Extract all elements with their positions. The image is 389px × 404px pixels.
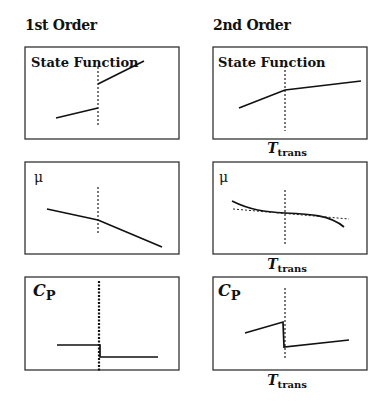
panel-frame-second-mu [213, 162, 367, 254]
ttrans-sub: trans [278, 147, 307, 158]
axis-label-ttrans-cp: Ttrans [257, 372, 317, 388]
phase-transition-diagram: State Function State Function μ μ CP CP [0, 0, 389, 404]
label-second-mu: μ [219, 169, 228, 185]
axis-label-ttrans-mu: Ttrans [257, 256, 317, 272]
axis-label-ttrans-sf: Ttrans [257, 140, 317, 156]
label-second-cp: CP [218, 281, 241, 303]
curve-first-cp [57, 345, 158, 357]
curve-first-sf-low [56, 108, 98, 118]
curve-second-mu [232, 201, 344, 227]
label-second-cp-main: C [218, 281, 231, 300]
label-first-state-function: State Function [31, 55, 139, 70]
ttrans-sub: trans [278, 379, 307, 390]
ttrans-main: T [267, 140, 277, 156]
label-second-cp-sub: P [231, 288, 241, 303]
curve-second-cp [245, 322, 349, 347]
ttrans-main: T [267, 256, 277, 272]
ttrans-main: T [267, 372, 277, 388]
curve-second-sf [239, 81, 361, 108]
label-first-cp: CP [33, 281, 56, 303]
label-second-state-function: State Function [218, 55, 326, 70]
curve-first-mu [47, 209, 162, 247]
ttrans-sub: trans [278, 263, 307, 274]
label-first-cp-main: C [33, 281, 46, 300]
label-first-cp-sub: P [46, 288, 56, 303]
panel-frame-first-mu [25, 162, 179, 254]
label-first-mu: μ [34, 169, 43, 185]
